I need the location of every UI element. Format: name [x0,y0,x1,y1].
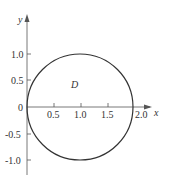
diagram-canvas: y x 0 0.5 1.0 1.5 2.0 1.0 0.5 -0.5 -1.0 … [0,0,172,182]
y-tick-label: 0.5 [11,75,24,86]
origin-label: 0 [18,102,23,113]
x-tick-label: 1.5 [101,109,114,120]
x-tick-label: 1.0 [74,109,87,120]
x-tick-label: 2.0 [135,109,148,120]
region-label: D [70,79,79,90]
y-tick-label: -1.0 [5,155,21,166]
y-axis-arrow-icon [25,14,30,22]
x-axis-label: x [153,107,159,118]
x-tick-label: 0.5 [47,109,60,120]
y-tick-label: -0.5 [5,129,21,140]
y-tick-label: 1.0 [11,49,24,60]
y-axis-label: y [17,14,23,25]
